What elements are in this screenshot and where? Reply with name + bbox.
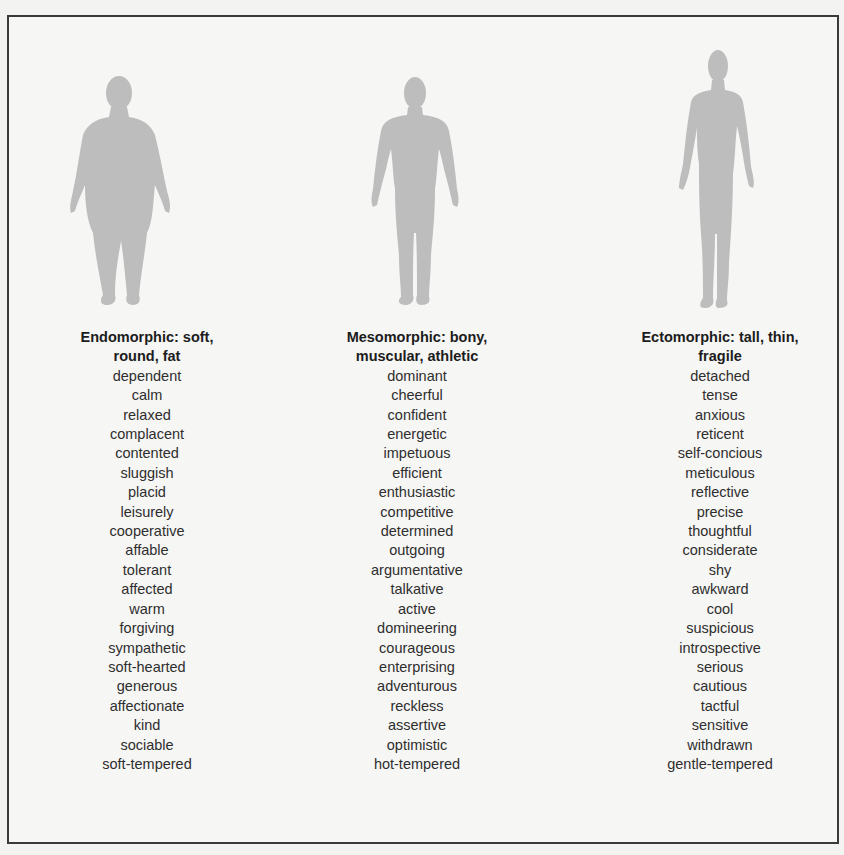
trait-item: argumentative (307, 561, 527, 580)
trait-item: anxious (605, 406, 835, 425)
trait-item: tactful (605, 697, 835, 716)
trait-item: tolerant (37, 561, 257, 580)
trait-item: sympathetic (37, 639, 257, 658)
trait-item: serious (605, 658, 835, 677)
trait-item: thoughtful (605, 522, 835, 541)
trait-item: determined (307, 522, 527, 541)
trait-item: assertive (307, 716, 527, 735)
trait-item: contented (37, 444, 257, 463)
trait-item: talkative (307, 580, 527, 599)
trait-item: suspicious (605, 619, 835, 638)
trait-item: cool (605, 600, 835, 619)
trait-item: relaxed (37, 406, 257, 425)
trait-item: outgoing (307, 541, 527, 560)
trait-item: dependent (37, 367, 257, 386)
trait-item: reflective (605, 483, 835, 502)
trait-item: domineering (307, 619, 527, 638)
trait-item: affectionate (37, 697, 257, 716)
trait-item: tense (605, 386, 835, 405)
trait-item: awkward (605, 580, 835, 599)
ectomorphic-traits: detached tense anxious reticent self-con… (605, 367, 835, 775)
trait-item: sensitive (605, 716, 835, 735)
mesomorphic-heading: Mesomorphic: bony, muscular, athletic (307, 328, 527, 367)
trait-item: shy (605, 561, 835, 580)
trait-item: meticulous (605, 464, 835, 483)
figure-frame: Endomorphic: soft, round, fat dependent … (7, 15, 839, 844)
trait-item: dominant (307, 367, 527, 386)
mesomorph-body-icon (359, 73, 469, 313)
ectomorph-silhouette (669, 44, 769, 314)
ectomorphic-heading: Ectomorphic: tall, thin, fragile (605, 328, 835, 367)
trait-item: confident (307, 406, 527, 425)
trait-item: warm (37, 600, 257, 619)
heading-line: Endomorphic: soft, (37, 328, 257, 347)
endomorphic-traits: dependent calm relaxed complacent conten… (37, 367, 257, 775)
trait-item: active (307, 600, 527, 619)
trait-item: cooperative (37, 522, 257, 541)
mesomorphic-column: Mesomorphic: bony, muscular, athletic do… (307, 328, 527, 774)
trait-item: sociable (37, 736, 257, 755)
trait-item: placid (37, 483, 257, 502)
ectomorph-body-icon (669, 44, 769, 314)
trait-item: impetuous (307, 444, 527, 463)
trait-item: efficient (307, 464, 527, 483)
trait-item: cautious (605, 677, 835, 696)
trait-item: reticent (605, 425, 835, 444)
trait-item: optimistic (307, 736, 527, 755)
trait-item: enterprising (307, 658, 527, 677)
trait-item: gentle-tempered (605, 755, 835, 774)
trait-item: competitive (307, 503, 527, 522)
trait-item: precise (605, 503, 835, 522)
trait-item: leisurely (37, 503, 257, 522)
trait-item: energetic (307, 425, 527, 444)
trait-item: sluggish (37, 464, 257, 483)
mesomorphic-traits: dominant cheerful confident energetic im… (307, 367, 527, 775)
trait-item: affable (37, 541, 257, 560)
mesomorph-silhouette (359, 73, 469, 313)
endomorph-silhouette (67, 73, 187, 313)
trait-item: detached (605, 367, 835, 386)
trait-item: courageous (307, 639, 527, 658)
trait-item: hot-tempered (307, 755, 527, 774)
trait-item: introspective (605, 639, 835, 658)
trait-item: affected (37, 580, 257, 599)
endomorph-body-icon (67, 73, 187, 313)
trait-item: generous (37, 677, 257, 696)
heading-line: fragile (605, 347, 835, 366)
trait-item: soft-tempered (37, 755, 257, 774)
trait-item: soft-hearted (37, 658, 257, 677)
heading-line: muscular, athletic (307, 347, 527, 366)
heading-line: round, fat (37, 347, 257, 366)
trait-item: enthusiastic (307, 483, 527, 502)
trait-item: complacent (37, 425, 257, 444)
endomorphic-heading: Endomorphic: soft, round, fat (37, 328, 257, 367)
trait-item: considerate (605, 541, 835, 560)
heading-line: Mesomorphic: bony, (307, 328, 527, 347)
trait-item: forgiving (37, 619, 257, 638)
endomorphic-column: Endomorphic: soft, round, fat dependent … (37, 328, 257, 774)
trait-item: kind (37, 716, 257, 735)
heading-line: Ectomorphic: tall, thin, (605, 328, 835, 347)
trait-item: self-concious (605, 444, 835, 463)
trait-item: withdrawn (605, 736, 835, 755)
trait-item: cheerful (307, 386, 527, 405)
trait-item: calm (37, 386, 257, 405)
trait-item: adventurous (307, 677, 527, 696)
ectomorphic-column: Ectomorphic: tall, thin, fragile detache… (605, 328, 835, 774)
trait-item: reckless (307, 697, 527, 716)
